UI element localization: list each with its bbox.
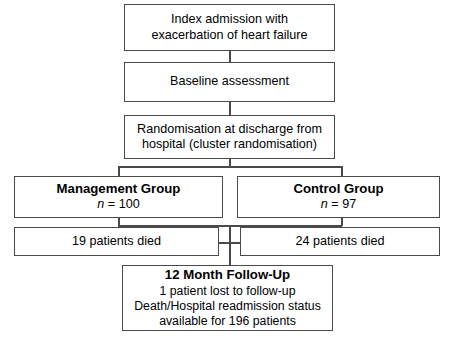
randomisation-line2: hospital (cluster randomisation): [142, 137, 317, 152]
connector-split-bar: [118, 166, 342, 168]
node-management-group: Management Group n = 100: [14, 176, 223, 218]
management-group-n-symbol: n: [97, 197, 104, 211]
node-randomisation: Randomisation at discharge from hospital…: [124, 115, 335, 159]
node-index-admission: Index admission with exacerbation of hea…: [124, 4, 335, 51]
index-admission-line2: exacerbation of heart failure: [151, 28, 307, 43]
control-group-title: Control Group: [293, 181, 383, 197]
connector-control-down: [341, 217, 343, 226]
node-baseline-assessment: Baseline assessment: [124, 62, 335, 102]
flowchart-canvas: Index admission with exacerbation of hea…: [0, 0, 454, 346]
control-group-n-value: = 97: [331, 197, 356, 211]
index-admission-line1: Index admission with: [171, 12, 288, 27]
connector-spine-to-followup: [229, 225, 231, 266]
node-control-deaths: 24 patients died: [240, 227, 440, 256]
control-group-n-symbol: n: [321, 197, 328, 211]
management-group-title: Management Group: [57, 181, 181, 197]
follow-up-line1: 1 patient lost to follow-up: [159, 284, 295, 299]
node-follow-up: 12 Month Follow-Up 1 patient lost to fol…: [122, 265, 333, 331]
connector-baseline-to-randomisation: [229, 101, 231, 116]
node-control-group: Control Group n = 97: [237, 176, 440, 218]
randomisation-line1: Randomisation at discharge from: [137, 122, 322, 137]
node-management-deaths: 19 patients died: [14, 227, 219, 256]
follow-up-line2: Death/Hospital readmission status: [134, 299, 321, 314]
follow-up-title: 12 Month Follow-Up: [165, 267, 290, 283]
management-group-n: n = 100: [97, 197, 139, 212]
control-deaths-label: 24 patients died: [296, 234, 385, 249]
control-group-n: n = 97: [321, 197, 356, 212]
management-deaths-label: 19 patients died: [72, 234, 161, 249]
follow-up-line3: available for 196 patients: [159, 314, 296, 329]
connector-deaths-link: [218, 242, 240, 244]
baseline-assessment-label: Baseline assessment: [170, 74, 289, 89]
management-group-n-value: = 100: [108, 197, 140, 211]
